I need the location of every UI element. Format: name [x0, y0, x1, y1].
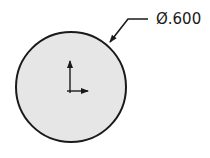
- circle-feature[interactable]: [16, 32, 126, 142]
- dimension-leader[interactable]: [110, 19, 148, 42]
- diameter-dimension-label[interactable]: Ø.600: [156, 10, 201, 28]
